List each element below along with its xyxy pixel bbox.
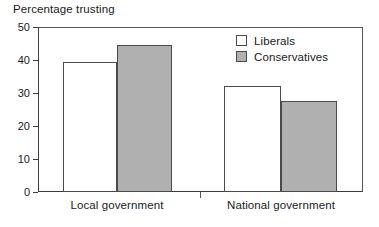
x-tick-label-local-government: Local government — [70, 199, 163, 211]
legend-item-liberals: Liberals — [236, 33, 328, 48]
y-tick-label-40: 40 — [18, 54, 30, 66]
y-tick-label-20: 20 — [18, 120, 30, 132]
bar-liberals-national-government — [224, 86, 281, 192]
x-axis-separator-tick — [200, 192, 201, 198]
y-tick-mark-0 — [33, 192, 38, 193]
y-tick-label-30: 30 — [18, 87, 30, 99]
y-axis: 50 40 30 20 10 0 — [0, 0, 30, 227]
bar-liberals-local-government — [63, 62, 117, 192]
y-tick-label-10: 10 — [18, 153, 30, 165]
y-tick-label-50: 50 — [18, 21, 30, 33]
chart-legend: Liberals Conservatives — [236, 33, 328, 65]
bar-conservatives-local-government — [117, 45, 172, 192]
gray-square-swatch-icon — [236, 51, 247, 62]
legend-label-conservatives: Conservatives — [254, 51, 328, 63]
x-tick-label-national-government: National government — [227, 199, 335, 211]
legend-item-conservatives: Conservatives — [236, 49, 328, 64]
legend-label-liberals: Liberals — [254, 35, 295, 47]
y-tick-label-0: 0 — [24, 186, 30, 198]
bar-conservatives-national-government — [281, 101, 337, 192]
white-square-swatch-icon — [236, 35, 247, 46]
bar-chart-figure: Percentage trusting 50 40 30 20 10 0 Loc… — [0, 0, 379, 227]
